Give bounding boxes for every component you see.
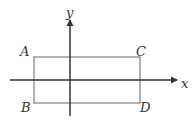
vertex-label-c: C	[136, 44, 146, 59]
vertex-label-a: A	[19, 44, 29, 59]
vertex-label-b: B	[20, 100, 31, 115]
vertex-label-d: D	[139, 100, 151, 115]
coordinate-diagram: y x A C B D	[0, 0, 194, 120]
y-axis-label: y	[65, 5, 74, 20]
x-axis-label: x	[181, 76, 189, 91]
